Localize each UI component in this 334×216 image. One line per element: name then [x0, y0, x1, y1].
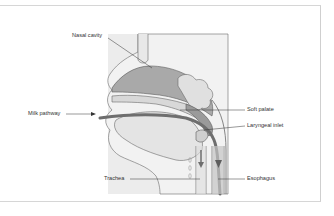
nasal-septum	[138, 34, 148, 63]
anatomy-diagram	[0, 0, 334, 216]
label-soft-palate: Soft palate	[247, 106, 274, 113]
esophagus-lumen	[212, 146, 224, 194]
label-laryngeal-inlet: Laryngeal inlet	[247, 122, 283, 129]
label-esophagus: Esophagus	[247, 175, 275, 182]
label-trachea: Trachea	[104, 175, 124, 182]
label-nasal-cavity: Nasal cavity	[72, 32, 102, 39]
label-milk-pathway: Milk pathway	[28, 110, 60, 117]
milk-pathway-arrow-icon	[91, 112, 96, 116]
